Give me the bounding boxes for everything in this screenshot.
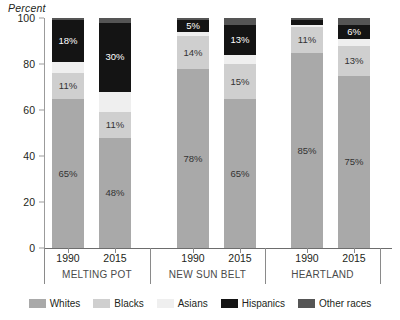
bar-segment-value-label: 30% (105, 52, 124, 62)
bar-segment-value-label: 15% (230, 77, 249, 87)
chart-legend: WhitesBlacksAsiansHispanicsOther races (0, 298, 400, 309)
bar-new-sun-belt-1990[interactable]: 5%14%78% (177, 18, 209, 248)
legend-item-blacks[interactable]: Blacks (93, 298, 143, 309)
x-axis-line (44, 248, 392, 249)
x-axis-group-label-new-sun-belt: NEW SUN BELT (150, 269, 265, 280)
bar-segment-blacks[interactable]: 11% (291, 27, 323, 52)
y-axis-tick-label: 40 (0, 150, 35, 162)
legend-swatch-icon (29, 299, 46, 308)
bar-segment-whites[interactable]: 65% (52, 99, 84, 249)
x-axis-year-label-new-sun-belt-2015: 2015 (217, 252, 263, 264)
bar-segment-value-label: 14% (183, 48, 202, 58)
x-axis-year-label-new-sun-belt-1990: 1990 (170, 252, 216, 264)
bar-segment-whites[interactable]: 75% (338, 76, 370, 249)
legend-label: Other races (319, 298, 371, 309)
bar-segment-whites[interactable]: 65% (224, 99, 256, 249)
bar-heartland-2015[interactable]: 6%13%75% (338, 18, 370, 248)
legend-item-asians[interactable]: Asians (157, 298, 208, 309)
x-axis-group-label-melting-pot: MELTING POT (44, 269, 150, 280)
legend-swatch-icon (221, 299, 238, 308)
bar-segment-blacks[interactable]: 14% (177, 36, 209, 68)
bar-segment-asians[interactable] (99, 92, 131, 113)
bar-segment-other-races[interactable] (338, 18, 370, 25)
bar-segment-blacks[interactable]: 11% (99, 112, 131, 137)
x-axis-year-label-heartland-2015: 2015 (331, 252, 377, 264)
x-axis-group-label-heartland: HEARTLAND (265, 269, 380, 280)
x-axis-year-label-heartland-1990: 1990 (284, 252, 330, 264)
bar-melting-pot-1990[interactable]: 18%11%65% (52, 18, 84, 248)
bar-heartland-1990[interactable]: 11%85% (291, 18, 323, 248)
bar-segment-hispanics[interactable]: 13% (224, 25, 256, 55)
bar-segment-hispanics[interactable]: 30% (99, 23, 131, 92)
bar-segment-value-label: 13% (230, 35, 249, 45)
legend-label: Hispanics (242, 298, 285, 309)
bar-segment-hispanics[interactable]: 6% (338, 25, 370, 39)
y-axis-tick-label: 100 (0, 12, 35, 24)
bar-segment-whites[interactable]: 85% (291, 53, 323, 249)
bar-segment-value-label: 11% (106, 120, 124, 130)
legend-label: Blacks (114, 298, 143, 309)
bar-segment-value-label: 48% (105, 188, 124, 198)
bar-segment-value-label: 6% (347, 27, 361, 37)
bar-segment-whites[interactable]: 48% (99, 138, 131, 248)
bar-segment-blacks[interactable]: 15% (224, 64, 256, 99)
x-axis-year-label-melting-pot-2015: 2015 (92, 252, 138, 264)
bar-segment-value-label: 75% (344, 157, 363, 167)
bar-segment-value-label: 85% (297, 146, 316, 156)
y-axis-tick-label: 20 (0, 196, 35, 208)
bar-segment-value-label: 65% (58, 169, 77, 179)
y-axis-tick-label: 60 (0, 104, 35, 116)
bar-segment-value-label: 18% (58, 36, 77, 46)
bar-new-sun-belt-2015[interactable]: 13%15%65% (224, 18, 256, 248)
y-axis-tick-label: 80 (0, 58, 35, 70)
bar-segment-value-label: 11% (298, 35, 316, 45)
bar-segment-asians[interactable] (224, 55, 256, 64)
legend-swatch-icon (93, 299, 110, 308)
bar-segment-hispanics[interactable]: 5% (177, 20, 209, 32)
legend-label: Whites (50, 298, 81, 309)
bar-melting-pot-2015[interactable]: 30%11%48% (99, 18, 131, 248)
legend-swatch-icon (298, 299, 315, 308)
y-axis-tick-label: 0 (0, 242, 35, 254)
bar-segment-blacks[interactable]: 13% (338, 46, 370, 76)
bar-segment-whites[interactable]: 78% (177, 69, 209, 248)
bar-segment-blacks[interactable]: 11% (52, 73, 84, 98)
bar-segment-value-label: 78% (183, 154, 202, 164)
bar-segment-asians[interactable] (338, 39, 370, 46)
legend-item-hispanics[interactable]: Hispanics (221, 298, 285, 309)
stacked-bar-chart: Percent 100806040200 18%11%65%30%11%48%5… (0, 0, 400, 320)
bar-segment-asians[interactable] (52, 62, 84, 74)
legend-swatch-icon (157, 299, 174, 308)
legend-item-other-races[interactable]: Other races (298, 298, 371, 309)
bar-segment-value-label: 5% (186, 21, 200, 31)
bar-segment-value-label: 65% (230, 169, 249, 179)
x-axis-group-divider (380, 248, 381, 284)
x-axis-year-label-melting-pot-1990: 1990 (45, 252, 91, 264)
bar-segment-hispanics[interactable]: 18% (52, 20, 84, 61)
plot-area: 18%11%65%30%11%48%5%14%78%13%15%65%11%85… (44, 18, 392, 248)
bar-segment-other-races[interactable] (224, 18, 256, 25)
bar-segment-value-label: 13% (344, 56, 363, 66)
bar-segment-value-label: 11% (59, 81, 77, 91)
legend-label: Asians (178, 298, 208, 309)
legend-item-whites[interactable]: Whites (29, 298, 81, 309)
